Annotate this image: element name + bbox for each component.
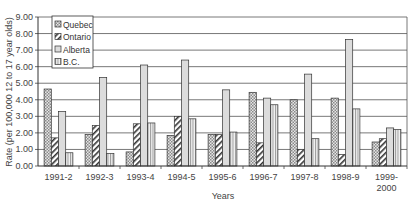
x-tick-label: 1999-2000 (375, 172, 398, 193)
bar-ontario-5 (256, 143, 263, 166)
bar-ontario-1 (92, 125, 99, 166)
bar-quebec-6 (290, 100, 297, 166)
bar-ontario-7 (338, 154, 345, 166)
y-tick-labels: 0.001.002.003.004.005.006.007.008.009.00 (15, 12, 33, 171)
bar-quebec-1 (85, 135, 92, 166)
bar-bc-1 (107, 154, 114, 166)
y-tick-label: 8.00 (15, 29, 33, 39)
bar-ontario-8 (379, 139, 386, 166)
x-tick-label: 1996-7 (249, 172, 277, 182)
bar-alberta-2 (141, 65, 148, 166)
bar-alberta-6 (305, 74, 312, 166)
bar-chart: 0.001.002.003.004.005.006.007.008.009.00… (0, 0, 411, 209)
bar-alberta-4 (223, 90, 230, 166)
bar-ontario-6 (297, 149, 304, 166)
y-tick-label: 3.00 (15, 111, 33, 121)
bar-quebec-2 (126, 152, 133, 166)
bar-quebec-4 (208, 135, 215, 166)
bar-alberta-1 (100, 77, 107, 166)
bar-ontario-2 (133, 124, 140, 166)
bar-ontario-4 (215, 135, 222, 166)
y-tick-label: 5.00 (15, 78, 33, 88)
legend-swatch-ontario (55, 34, 61, 40)
x-tick-label: 1993-4 (126, 172, 154, 182)
y-tick-label: 9.00 (15, 12, 33, 22)
bar-quebec-0 (44, 89, 51, 166)
legend-swatch-bc (55, 59, 61, 65)
bar-bc-3 (189, 119, 196, 166)
y-tick-label: 7.00 (15, 45, 33, 55)
bar-bc-6 (312, 139, 319, 166)
y-tick-label: 2.00 (15, 128, 33, 138)
bar-bc-5 (271, 105, 278, 166)
y-tick-label: 0.00 (15, 161, 33, 171)
bar-quebec-8 (372, 142, 379, 166)
x-tick-label: 1991-2 (44, 172, 72, 182)
bar-alberta-8 (387, 128, 394, 166)
legend-label: Quebec (63, 20, 94, 30)
bar-alberta-3 (182, 60, 189, 166)
y-tick-label: 6.00 (15, 62, 33, 72)
legend-swatch-alberta (55, 46, 61, 52)
bar-bc-0 (66, 153, 73, 166)
x-tick-label: 1995-6 (208, 172, 236, 182)
x-tick-labels: 1991-21992-31993-41994-51995-61996-71997… (44, 172, 398, 193)
x-axis-title: Years (212, 191, 235, 201)
y-tick-label: 4.00 (15, 95, 33, 105)
legend: QuebecOntarioAlbertaB.C. (52, 16, 94, 68)
bar-quebec-7 (331, 98, 338, 166)
legend-swatch-quebec (55, 21, 61, 27)
legend-label: B.C. (63, 57, 80, 67)
bar-quebec-5 (249, 92, 256, 166)
x-tick-label: 1994-5 (167, 172, 195, 182)
y-axis-title: Rate (per 100,000 12 to 17 year olds) (4, 17, 14, 167)
x-tick-label: 1992-3 (85, 172, 113, 182)
bar-ontario-0 (51, 138, 58, 166)
bar-alberta-7 (346, 39, 353, 166)
bar-bc-8 (394, 130, 401, 166)
bar-quebec-3 (167, 135, 174, 166)
bar-bc-4 (230, 132, 237, 166)
bar-bc-2 (148, 123, 155, 166)
y-tick-label: 1.00 (15, 144, 33, 154)
bar-alberta-5 (264, 98, 271, 166)
x-tick-label: 1998-9 (331, 172, 359, 182)
bar-bc-7 (353, 109, 360, 166)
bar-ontario-3 (174, 116, 181, 166)
legend-label: Ontario (63, 32, 91, 42)
bars (44, 39, 401, 166)
x-tick-label: 1997-8 (290, 172, 318, 182)
bar-alberta-0 (59, 111, 66, 166)
legend-label: Alberta (63, 45, 90, 55)
